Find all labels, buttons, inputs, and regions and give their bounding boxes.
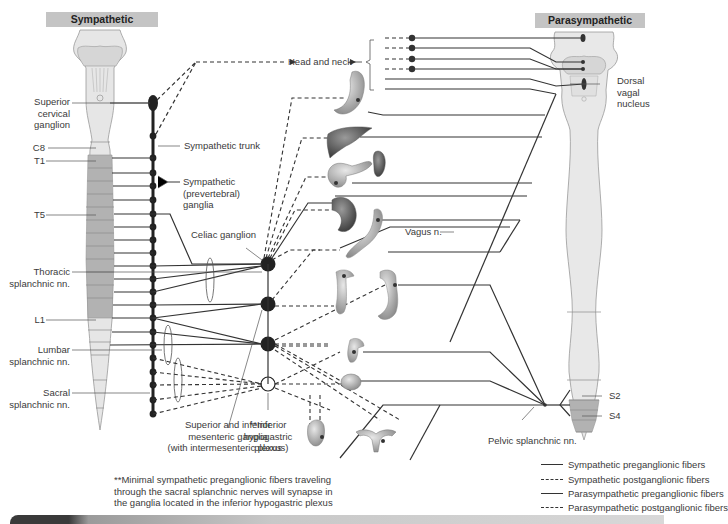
label-line: Lumbar xyxy=(9,344,70,356)
label-sympathetic-trunk: Sympathetic trunk xyxy=(184,140,260,152)
label-line: Thoracic xyxy=(9,266,70,278)
rami-communicantes xyxy=(110,103,153,332)
label-inferior-hypogastric-plexus: **Inferior hypogastric plexus xyxy=(236,419,300,454)
footer-bar xyxy=(10,515,664,524)
label-lumbar-splanchnic: Lumbar splanchnic nn. xyxy=(9,344,70,367)
label-line: splanchnic nn. xyxy=(9,278,70,290)
label-line: Sacral xyxy=(9,387,70,399)
label-thoracic-splanchnic: Thoracic splanchnic nn. xyxy=(9,266,70,289)
lumbar-sacral-postganglionic xyxy=(153,285,400,435)
label-line: **Inferior xyxy=(236,419,300,431)
label-pelvic-splanchnic: Pelvic splanchnic nn. xyxy=(488,435,577,447)
parasympathetic-spinal-cord xyxy=(550,32,617,440)
legend-label: Parasympathetic postganglionic fibers xyxy=(568,502,728,513)
sympathetic-spinal-cord xyxy=(74,30,127,430)
organ-liver xyxy=(327,127,372,158)
label-line: vagal xyxy=(617,87,650,99)
label-pointers xyxy=(46,84,602,428)
organ-kidney xyxy=(332,197,356,231)
label-line: splanchnic nn. xyxy=(9,399,70,411)
label-vagus-nerve: Vagus n. xyxy=(405,226,442,238)
organ-descending-colon xyxy=(378,270,398,319)
footnote-line: through the sacral splanchnic nerves wil… xyxy=(114,486,333,498)
label-dorsal-vagal-nucleus: Dorsal vagal nucleus xyxy=(617,75,650,110)
label-sacral-splanchnic: Sacral splanchnic nn. xyxy=(9,387,70,410)
legend-label: Sympathetic postganglionic fibers xyxy=(568,474,710,485)
organ-spleen xyxy=(373,151,385,176)
legend-item: Sympathetic preganglionic fibers xyxy=(541,459,705,470)
solid-line-swatch-icon xyxy=(541,493,563,494)
label-line: Sympathetic xyxy=(183,176,240,188)
label-line: hypogastric xyxy=(236,431,300,443)
label-t5: T5 xyxy=(34,209,45,221)
footnote-line: the ganglia located in the inferior hypo… xyxy=(114,497,333,509)
legend-item: Parasympathetic preganglionic fibers xyxy=(541,488,724,499)
label-head-and-neck: Head and neck xyxy=(288,56,352,68)
label-line: Dorsal xyxy=(617,75,650,87)
head-neck-postganglionic xyxy=(156,62,286,134)
sympathetic-header: Sympathetic xyxy=(46,12,158,27)
organ-rectum xyxy=(348,338,364,362)
label-s4: S4 xyxy=(609,410,621,422)
organ-bladder xyxy=(341,374,361,390)
label-superior-cervical-ganglion: Superior cervical ganglion xyxy=(34,96,70,131)
dashed-line-swatch-icon xyxy=(541,479,563,480)
sympathetic-trunk xyxy=(148,95,158,417)
label-celiac-ganglion: Celiac ganglion xyxy=(191,229,256,241)
organ-uterus-and-ovaries xyxy=(356,430,396,452)
vagus-nerve xyxy=(335,94,556,342)
label-line: ganglia xyxy=(183,199,240,211)
footnote: **Minimal sympathetic preganglionic fibe… xyxy=(114,474,333,509)
label-line: (prevertebral) xyxy=(183,188,240,200)
label-line: Superior xyxy=(34,96,70,108)
legend-item: Parasympathetic postganglionic fibers xyxy=(541,502,728,513)
label-prevertebral-ganglia: Sympathetic (prevertebral) ganglia xyxy=(183,176,240,211)
parasympathetic-header: Parasympathetic xyxy=(535,13,645,28)
legend-label: Parasympathetic preganglionic fibers xyxy=(568,488,724,499)
label-c8: C8 xyxy=(33,142,45,154)
solid-line-swatch-icon xyxy=(541,464,563,465)
label-s2: S2 xyxy=(609,390,621,402)
label-line: splanchnic nn. xyxy=(9,356,70,368)
label-l1: L1 xyxy=(34,314,45,326)
legend-label: Sympathetic preganglionic fibers xyxy=(568,459,705,470)
celiac-postganglionic xyxy=(264,98,345,300)
footnote-line: **Minimal sympathetic preganglionic fibe… xyxy=(114,474,333,486)
label-line: cervical xyxy=(34,108,70,120)
label-line: ganglion xyxy=(34,119,70,131)
legend-item: Sympathetic postganglionic fibers xyxy=(541,474,710,485)
label-line: plexus xyxy=(236,442,300,454)
organ-ascending-colon xyxy=(336,270,354,314)
label-t1: T1 xyxy=(34,155,45,167)
label-line: nucleus xyxy=(617,98,650,110)
dashed-line-swatch-icon xyxy=(541,507,563,508)
organ-male-genitalia xyxy=(307,420,324,446)
organ-stomach xyxy=(334,71,364,114)
